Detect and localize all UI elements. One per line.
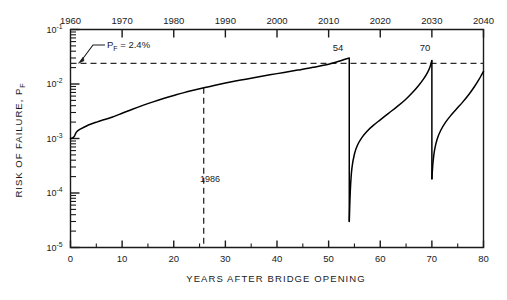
x-axis-tick-label: 20 [168,253,179,264]
y-tick-mantissa: 10 [46,79,56,89]
y-tick-exponent: -4 [56,186,62,193]
y-tick-exponent: -5 [56,241,62,248]
x-axis-tick-label: 40 [272,253,283,264]
chart-figure: 10-110-210-310-410-501020304050607080196… [0,0,507,300]
top-axis-tick-label: 2010 [318,15,339,26]
y-tick-mantissa: 10 [46,243,56,253]
top-axis-tick-label: 2020 [370,15,391,26]
repair-2-year-label: 70 [420,42,431,53]
risk-of-failure-chart: 10-110-210-310-410-501020304050607080196… [0,0,507,300]
y-axis-title-subscript: F [19,82,26,87]
y-tick-mantissa: 10 [46,25,56,35]
y-tick-exponent: -2 [56,77,62,84]
y-axis-title-main: RISK OF FAILURE, P [13,88,24,198]
x-axis-tick-label: 60 [375,253,386,264]
x-axis-tick-label: 10 [117,253,128,264]
year-1986-label: 1986 [200,174,220,184]
top-axis-tick-label: 2030 [421,15,442,26]
y-tick-mantissa: 10 [46,134,56,144]
x-axis-tick-label: 70 [427,253,438,264]
threshold-value-text: = 2.4% [118,39,151,50]
repair-1-year-label: 54 [333,42,344,53]
top-axis-tick-label: 2040 [473,15,494,26]
x-axis-title: YEARS AFTER BRIDGE OPENING [186,273,366,284]
top-axis-tick-label: 2000 [266,15,287,26]
x-axis-tick-label: 80 [478,253,489,264]
x-axis-tick-label: 50 [323,253,334,264]
y-tick-exponent: -3 [56,132,62,139]
top-axis-tick-label: 1980 [163,15,184,26]
top-axis-tick-label: 1970 [112,15,133,26]
x-axis-tick-label: 30 [220,253,231,264]
top-axis-tick-label: 1960 [60,15,81,26]
y-tick-mantissa: 10 [46,188,56,198]
top-axis-tick-label: 1990 [215,15,236,26]
x-axis-tick-label: 0 [68,253,73,264]
